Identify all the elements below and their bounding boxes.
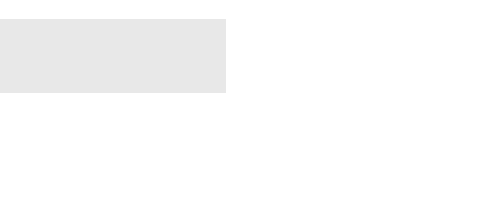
- figure-graphics: [0, 0, 479, 207]
